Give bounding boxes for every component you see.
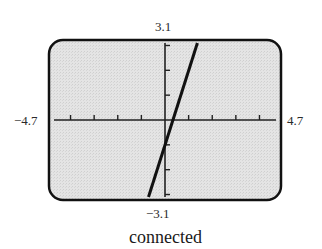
y-min-label: −3.1 [146, 207, 170, 220]
calculator-graph-figure: 3.1 −3.1 −4.7 4.7 connected [0, 0, 322, 249]
x-min-label: −4.7 [14, 114, 38, 127]
x-max-label: 4.7 [287, 114, 303, 127]
y-max-label: 3.1 [155, 20, 171, 33]
caption: connected [0, 228, 322, 246]
